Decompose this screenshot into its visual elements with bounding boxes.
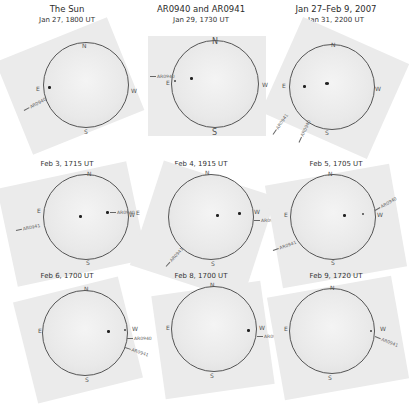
- east-label: E: [166, 325, 170, 331]
- south-label: S: [211, 261, 215, 267]
- sun-disc: [290, 174, 376, 260]
- sunspot: [303, 85, 306, 88]
- east-label: E: [284, 326, 288, 332]
- north-label: N: [205, 170, 210, 176]
- west-label: W: [254, 209, 260, 215]
- south-label: S: [325, 130, 329, 136]
- sun-disc: [43, 42, 129, 128]
- sunspot: [190, 77, 193, 80]
- sunspot: [106, 211, 109, 214]
- panel-caption: Jan 29, 1730 UT: [134, 16, 268, 24]
- south-label: S: [212, 130, 217, 136]
- east-label: E: [136, 210, 140, 216]
- sketch-panel-3: Jan 31, 2200 UT N S E W AR0941 AR0940: [269, 16, 403, 146]
- west-label: W: [262, 82, 268, 88]
- sunspot: [48, 86, 51, 89]
- panel-caption: Jan 31, 2200 UT: [269, 16, 403, 24]
- sunspot: [216, 214, 219, 217]
- west-label: W: [375, 86, 381, 92]
- north-label: N: [82, 43, 87, 49]
- sunspot: [343, 214, 346, 217]
- sketch-panel-5: Feb 4, 1915 UT N S E W AR0940 AR0941: [134, 160, 268, 290]
- sketch-panel-9: Feb 9, 1720 UT N S E W AR0941: [269, 272, 403, 402]
- east-label: E: [166, 80, 170, 86]
- sunspot: [325, 82, 329, 85]
- sketch-panel-7: Feb 6, 1700 UT N S E W AR0940 AR0941: [0, 272, 134, 402]
- sun-disc: [43, 174, 129, 260]
- west-label: W: [380, 326, 386, 332]
- south-label: S: [86, 260, 90, 266]
- column-title-3: Jan 27–Feb 9, 2007: [269, 4, 403, 14]
- east-label: E: [284, 212, 288, 218]
- north-label: N: [210, 282, 215, 288]
- region-label: AR0940: [110, 210, 135, 215]
- north-label: N: [212, 39, 218, 45]
- east-label: E: [36, 86, 40, 92]
- column-title-1: The Sun: [0, 4, 134, 14]
- sketch-panel-1: Jan 27, 1800 UT N S E W AR0940: [0, 16, 134, 146]
- sun-disc: [289, 288, 375, 374]
- sunspot: [107, 330, 110, 333]
- east-label: E: [37, 208, 41, 214]
- east-label: E: [282, 83, 286, 89]
- region-label: AR0940: [150, 74, 175, 79]
- sun-disc: [289, 44, 375, 130]
- south-label: S: [84, 129, 88, 135]
- west-label: W: [377, 212, 383, 218]
- north-label: N: [328, 171, 333, 177]
- south-label: S: [85, 377, 89, 383]
- west-label: W: [259, 325, 265, 331]
- sketch-panel-8: Feb 8, 1700 UT N S E W AR0941: [134, 272, 268, 402]
- sun-disc: [171, 40, 259, 128]
- north-label: N: [84, 286, 89, 292]
- panel-caption: Jan 27, 1800 UT: [0, 16, 134, 24]
- sketch-panel-6: Feb 5, 1705 UT N S E W AR0940 AR0941: [269, 160, 403, 290]
- sunspot: [238, 212, 241, 215]
- north-label: N: [87, 171, 92, 177]
- sunspot: [124, 329, 126, 331]
- south-label: S: [328, 375, 332, 381]
- south-label: S: [331, 260, 335, 266]
- sunspot: [370, 330, 372, 332]
- panel-caption: Feb 4, 1915 UT: [134, 160, 268, 168]
- sketch-panel-2: Jan 29, 1730 UT N S E W AR0940: [134, 16, 268, 146]
- sketch-panel-4: Feb 3, 1715 UT N S E W AR0941 AR0940: [0, 160, 134, 290]
- north-label: N: [331, 42, 336, 48]
- sunspot: [79, 215, 82, 218]
- east-label: E: [38, 328, 42, 334]
- sunspot: [247, 329, 250, 332]
- north-label: N: [330, 285, 335, 291]
- sunspot: [174, 80, 176, 82]
- south-label: S: [210, 373, 214, 379]
- column-title-2: AR0940 and AR0941: [134, 4, 268, 14]
- sunspot: [362, 213, 364, 215]
- panel-caption: Feb 8, 1700 UT: [134, 272, 268, 280]
- sun-disc: [42, 290, 128, 376]
- sun-disc: [171, 286, 257, 372]
